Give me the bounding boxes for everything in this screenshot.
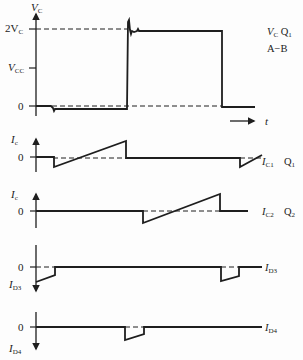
ic2-waveform [36,194,248,223]
ic1-waveform [36,141,262,167]
id4-axis-label: ID4 [8,342,22,356]
vc-legend-line1: VC Q1 [267,26,292,39]
time-label: t [265,115,269,127]
id3-axis-label: ID3 [8,278,22,292]
id4-panel: 0 ID4 ID4 [8,312,278,356]
level-zero-label: 0 [18,100,24,112]
vc-panel: VC 2VC VCC 0 t VC Q1 A−B [5,1,292,127]
id4-waveform [36,327,262,340]
ic1-zero-label: 0 [18,151,24,163]
vc-waveform [36,20,255,111]
level-2vc-label: 2VC [5,22,23,36]
ic2-trace-label: IC2 [261,206,274,219]
waveform-diagram: VC 2VC VCC 0 t VC Q1 A−B Ic 0 IC1 Q1 Ic [0,0,303,360]
ic2-device-label: Q2 [284,206,296,219]
id3-zero-label: 0 [18,261,24,273]
ic1-axis-label: Ic [10,133,18,147]
vc-axis-label: VC [31,1,43,15]
id3-panel: 0 ID3 ID3 [8,245,278,292]
vc-legend-line2: A−B [267,43,288,54]
ic2-zero-label: 0 [18,205,24,217]
ic2-axis-label: Ic [10,188,18,202]
ic1-panel: Ic 0 IC1 Q1 [10,133,296,172]
ic1-device-label: Q1 [284,156,296,169]
id4-zero-label: 0 [18,321,24,333]
id3-waveform [36,267,262,282]
ic1-trace-label: IC1 [261,156,274,169]
id4-trace-label: ID4 [264,322,278,335]
ic2-panel: Ic 0 IC2 Q2 [10,188,296,228]
id3-trace-label: ID3 [264,262,278,275]
level-vcc-label: VCC [8,61,24,75]
